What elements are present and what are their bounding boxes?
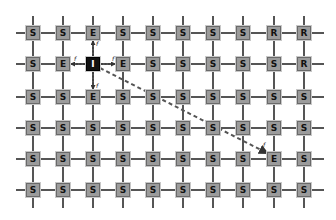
node-s-r4-c1: S [56,152,70,166]
node-s-r5-c4: S [146,183,160,197]
dashed-route-arrow [100,68,267,153]
arrow-label-1: f [74,56,76,62]
node-s-r0-c4: S [146,26,160,40]
node-s-r4-c7: S [236,152,250,166]
node-s-r3-c9: S [297,121,311,135]
node-s-r1-c7: S [236,57,250,71]
node-s-r1-c5: S [176,57,190,71]
node-s-r2-c4: S [146,90,160,104]
node-s-r4-c0: S [26,152,40,166]
node-i-r1-c2: I [86,57,100,71]
node-s-r3-c5: S [176,121,190,135]
node-s-r0-c3: S [116,26,130,40]
node-s-r5-c8: S [267,183,281,197]
node-e-r0-c2: E [86,26,100,40]
node-e-r1-c1: E [56,57,70,71]
node-s-r4-c2: S [86,152,100,166]
node-s-r0-c5: S [176,26,190,40]
node-s-r0-c0: S [26,26,40,40]
node-s-r4-c9: S [297,152,311,166]
node-s-r1-c4: S [146,57,160,71]
node-s-r3-c2: S [86,121,100,135]
node-s-r5-c6: S [206,183,220,197]
node-s-r0-c1: S [56,26,70,40]
node-s-r2-c7: S [236,90,250,104]
arrow-overlay [0,0,336,220]
node-s-r2-c5: S [176,90,190,104]
node-e-r2-c2: E [86,90,100,104]
node-s-r5-c1: S [56,183,70,197]
node-r-r0-c8: R [267,26,281,40]
node-r-r0-c9: R [297,26,311,40]
node-s-r5-c0: S [26,183,40,197]
node-s-r5-c3: S [116,183,130,197]
node-s-r1-c8: S [267,57,281,71]
node-s-r5-c7: S [236,183,250,197]
node-s-r5-c9: S [297,183,311,197]
node-s-r0-c6: S [206,26,220,40]
node-s-r4-c6: S [206,152,220,166]
node-s-r2-c9: S [297,90,311,104]
node-s-r5-c5: S [176,183,190,197]
node-s-r3-c0: S [26,121,40,135]
node-s-r3-c7: S [236,121,250,135]
node-s-r3-c1: S [56,121,70,135]
node-e-r4-c8: E [267,152,281,166]
arrow-label-3: f [96,83,98,89]
node-s-r3-c8: S [267,121,281,135]
node-s-r4-c5: S [176,152,190,166]
node-s-r2-c8: S [267,90,281,104]
node-s-r2-c0: S [26,90,40,104]
arrow-label-0: f [96,41,98,47]
node-s-r1-c6: S [206,57,220,71]
node-s-r1-c0: S [26,57,40,71]
node-s-r5-c2: S [86,183,100,197]
node-e-r1-c3: E [116,57,130,71]
node-s-r3-c4: S [146,121,160,135]
node-s-r2-c6: S [206,90,220,104]
node-s-r3-c3: S [116,121,130,135]
node-s-r2-c3: S [116,90,130,104]
node-s-r0-c7: S [236,26,250,40]
node-s-r2-c1: S [56,90,70,104]
node-s-r4-c3: S [116,152,130,166]
mesh-grid-diagram: SSESSSSSRRSEIESSSSSRSSESSSSSSSSSSSSSSSSS… [0,0,336,220]
node-s-r4-c4: S [146,152,160,166]
node-r-r1-c9: R [297,57,311,71]
arrow-label-route: f [263,142,265,148]
arrow-label-2: f [112,56,114,62]
node-s-r3-c6: S [206,121,220,135]
